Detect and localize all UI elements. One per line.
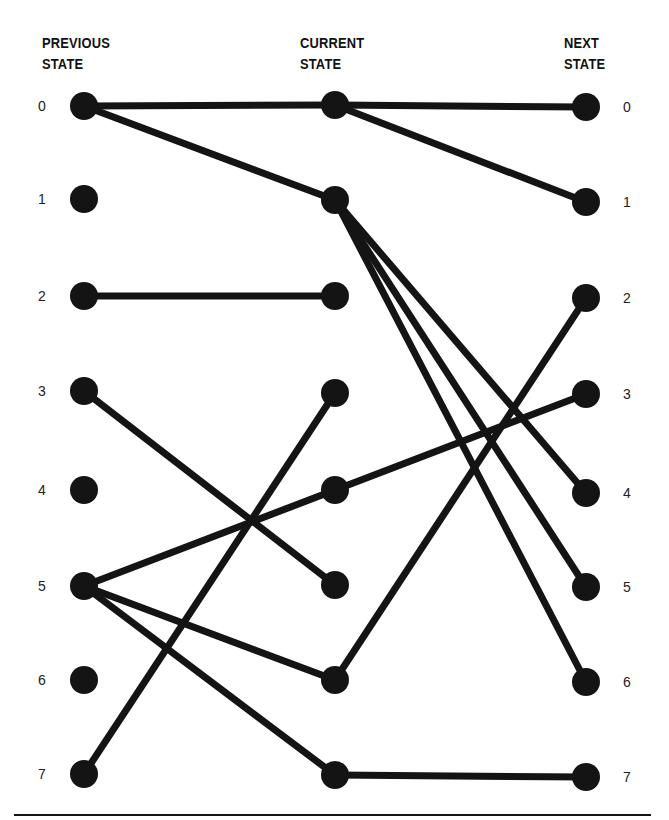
transition-graph bbox=[0, 0, 669, 820]
edge-cur-next-0-to-1 bbox=[335, 105, 586, 202]
edge-cur-next-7-to-7 bbox=[335, 775, 586, 777]
next-state-node-1 bbox=[572, 188, 600, 216]
right-label-0: 0 bbox=[620, 99, 634, 115]
left-label-1: 1 bbox=[35, 191, 49, 207]
current-state-header: CURRENT STATE bbox=[300, 33, 364, 75]
previous-state-node-7 bbox=[70, 760, 98, 788]
previous-state-header: PREVIOUS STATE bbox=[42, 33, 110, 75]
next-state-header: NEXT STATE bbox=[564, 33, 605, 75]
previous-header-line1: PREVIOUS bbox=[42, 33, 110, 54]
left-label-6: 6 bbox=[35, 672, 49, 688]
current-state-node-5 bbox=[321, 571, 349, 599]
next-state-node-4 bbox=[572, 479, 600, 507]
left-label-3: 3 bbox=[35, 383, 49, 399]
previous-state-node-6 bbox=[70, 666, 98, 694]
previous-state-node-3 bbox=[70, 377, 98, 405]
next-state-node-2 bbox=[572, 284, 600, 312]
left-label-7: 7 bbox=[35, 766, 49, 782]
edge-cur-next-6-to-2 bbox=[335, 298, 586, 680]
edge-prev-cur-5-to-4 bbox=[84, 490, 335, 586]
next-state-node-7 bbox=[572, 763, 600, 791]
previous-state-node-2 bbox=[70, 282, 98, 310]
edge-cur-next-0-to-0 bbox=[335, 105, 586, 107]
next-state-node-0 bbox=[572, 93, 600, 121]
right-label-5: 5 bbox=[620, 579, 634, 595]
next-state-node-3 bbox=[572, 380, 600, 408]
current-state-node-2 bbox=[321, 282, 349, 310]
state-transition-diagram: PREVIOUS STATE CURRENT STATE NEXT STATE … bbox=[0, 0, 669, 820]
current-state-node-6 bbox=[321, 666, 349, 694]
current-state-node-7 bbox=[321, 761, 349, 789]
left-label-5: 5 bbox=[35, 578, 49, 594]
edge-prev-cur-0-to-1 bbox=[84, 106, 335, 200]
current-state-node-3 bbox=[321, 379, 349, 407]
right-label-3: 3 bbox=[620, 386, 634, 402]
current-header-line1: CURRENT bbox=[300, 33, 364, 54]
right-label-4: 4 bbox=[620, 485, 634, 501]
current-header-line2: STATE bbox=[300, 54, 364, 75]
previous-state-node-0 bbox=[70, 92, 98, 120]
edge-cur-next-4-to-3 bbox=[335, 394, 586, 490]
edge-prev-cur-5-to-6 bbox=[84, 586, 335, 680]
next-state-node-5 bbox=[572, 573, 600, 601]
previous-state-node-5 bbox=[70, 572, 98, 600]
right-label-1: 1 bbox=[620, 194, 634, 210]
edge-prev-cur-7-to-3 bbox=[84, 393, 335, 774]
previous-header-line2: STATE bbox=[42, 54, 110, 75]
current-state-node-0 bbox=[321, 91, 349, 119]
right-label-6: 6 bbox=[620, 674, 634, 690]
edge-prev-cur-5-to-7 bbox=[84, 586, 335, 775]
next-state-node-6 bbox=[572, 668, 600, 696]
current-state-node-1 bbox=[321, 186, 349, 214]
previous-state-node-1 bbox=[70, 185, 98, 213]
left-label-0: 0 bbox=[35, 98, 49, 114]
left-label-4: 4 bbox=[35, 482, 49, 498]
right-label-7: 7 bbox=[620, 769, 634, 785]
edge-cur-next-1-to-4 bbox=[335, 200, 586, 493]
current-state-node-4 bbox=[321, 476, 349, 504]
next-header-line2: STATE bbox=[564, 54, 605, 75]
edge-prev-cur-0-to-0 bbox=[84, 105, 335, 106]
edge-prev-cur-3-to-5 bbox=[84, 391, 335, 585]
left-label-2: 2 bbox=[35, 288, 49, 304]
edge-cur-next-1-to-5 bbox=[335, 200, 586, 587]
right-label-2: 2 bbox=[620, 290, 634, 306]
next-header-line1: NEXT bbox=[564, 33, 605, 54]
previous-state-node-4 bbox=[70, 476, 98, 504]
